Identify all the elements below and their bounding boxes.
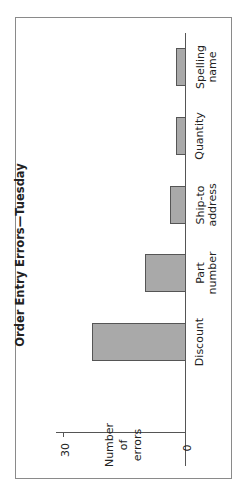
category-label-line: Discount — [194, 318, 206, 366]
tick-label-30: 30 — [60, 443, 72, 457]
category-label-line: address — [207, 183, 219, 226]
category-axis-line — [185, 33, 186, 466]
category-label-line: Quantity — [194, 112, 206, 160]
category-label: Ship-toaddress — [195, 183, 219, 226]
category-label: Partnumber — [195, 252, 219, 295]
bar-discount — [92, 323, 186, 361]
bar-spelling-name — [176, 48, 186, 86]
bar-quantity — [176, 117, 186, 155]
tick-label-0: 0 — [182, 445, 194, 452]
bar-ship-to-address — [170, 186, 186, 224]
bar-part-number — [145, 254, 186, 292]
chart-title: Order Entry Errors—Tuesday — [8, 150, 32, 360]
y-axis-label: Number of errors — [103, 423, 145, 467]
category-label: Discount — [194, 318, 206, 366]
category-label-line: number — [207, 252, 219, 295]
category-label-line: name — [207, 45, 219, 89]
category-label: Quantity — [194, 112, 206, 160]
category-label: Spellingname — [195, 45, 219, 89]
tick-30 — [63, 432, 64, 437]
tick-0 — [185, 432, 186, 437]
